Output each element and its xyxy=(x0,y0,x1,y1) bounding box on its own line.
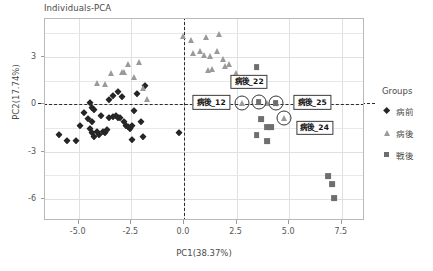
legend-item-label: 病後 xyxy=(396,127,414,139)
x-axis-tick xyxy=(236,220,237,224)
data-point xyxy=(139,133,147,141)
data-point xyxy=(125,61,131,67)
y-axis-label: PC2(17.74%) xyxy=(11,42,21,142)
data-point xyxy=(102,81,108,87)
x-axis-label: PC1(38.37%) xyxy=(44,248,364,258)
x-axis-tick-label: 0.0 xyxy=(177,227,190,236)
triangle-glyph xyxy=(384,130,390,136)
point-label: 病後_22 xyxy=(231,75,268,89)
data-point xyxy=(175,130,183,138)
legend: Groups 病前病後戦後 xyxy=(381,86,433,169)
y-axis-tick-label: -3 xyxy=(12,146,36,155)
x-axis-tick-label: -5.0 xyxy=(70,227,86,236)
page-title: Individuals-PCA xyxy=(44,3,111,13)
triangle-marker-icon xyxy=(381,130,392,136)
y-axis-tick xyxy=(41,56,45,57)
diamond-glyph xyxy=(383,107,391,115)
gridline-vertical xyxy=(79,19,80,219)
gridline-vertical xyxy=(342,19,343,219)
data-point xyxy=(121,69,127,75)
data-point xyxy=(332,195,338,201)
square-marker-icon xyxy=(381,152,392,158)
x-axis-tick xyxy=(288,220,289,224)
data-point xyxy=(140,85,146,91)
gridline-vertical xyxy=(237,19,238,219)
x-axis-tick xyxy=(183,220,184,224)
plot-area xyxy=(44,18,364,220)
data-point xyxy=(264,138,270,144)
data-point xyxy=(216,31,222,37)
gridline-horizontal xyxy=(45,152,363,153)
data-point xyxy=(136,59,142,65)
y-axis-tick-label: -6 xyxy=(12,193,36,202)
data-point xyxy=(118,93,126,101)
data-point xyxy=(63,137,71,145)
data-point xyxy=(325,173,331,179)
highlighted-point-circle xyxy=(251,94,266,109)
x-axis-tick xyxy=(130,220,131,224)
legend-title: Groups xyxy=(382,86,433,96)
highlighted-point-circle xyxy=(276,110,291,125)
legend-item-label: 戦後 xyxy=(396,149,414,161)
highlighted-point-circle xyxy=(234,96,249,111)
gridline-vertical xyxy=(131,19,132,219)
zero-reference-line-vertical xyxy=(184,18,185,220)
data-point xyxy=(97,112,105,120)
legend-item-3[interactable]: 戦後 xyxy=(381,147,433,162)
data-point xyxy=(129,136,137,144)
x-axis-tick-label: 7.5 xyxy=(334,227,347,236)
data-point xyxy=(214,48,220,54)
data-point xyxy=(137,119,145,127)
gridline-horizontal xyxy=(45,199,363,200)
data-point xyxy=(209,66,215,72)
data-point xyxy=(258,116,264,122)
data-point xyxy=(188,37,194,43)
data-point xyxy=(207,53,213,59)
point-label: 病後_24 xyxy=(296,121,333,135)
data-point xyxy=(201,52,207,58)
data-point xyxy=(254,132,260,138)
data-point xyxy=(55,131,63,139)
legend-item-2[interactable]: 病後 xyxy=(381,125,433,140)
point-label: 病後_12 xyxy=(193,95,230,109)
data-point xyxy=(220,56,226,62)
data-point xyxy=(91,106,99,114)
y-axis-tick xyxy=(41,198,45,199)
data-point xyxy=(180,33,186,39)
y-axis-tick xyxy=(41,151,45,152)
highlighted-point-circle xyxy=(268,96,283,111)
data-point xyxy=(131,74,137,80)
diamond-marker-icon xyxy=(381,108,392,113)
data-point xyxy=(108,70,114,76)
x-axis-tick-label: 5.0 xyxy=(282,227,295,236)
x-axis-tick-label: 2.5 xyxy=(229,227,242,236)
x-axis-tick xyxy=(341,220,342,224)
x-axis-tick-label: -2.5 xyxy=(123,227,139,236)
data-point xyxy=(94,80,100,86)
data-point xyxy=(329,181,335,187)
data-point xyxy=(203,34,209,40)
data-point xyxy=(268,124,274,130)
legend-item-label: 病前 xyxy=(396,105,414,117)
pca-scatter-figure: Individuals-PCA -5.0-2.50.02.55.07.530-3… xyxy=(0,0,433,271)
y-axis-tick xyxy=(41,103,45,104)
x-axis-tick xyxy=(78,220,79,224)
data-point xyxy=(133,90,141,98)
data-point xyxy=(190,50,196,56)
point-label: 病後_25 xyxy=(294,95,331,109)
data-point xyxy=(226,61,232,67)
data-point xyxy=(144,96,150,102)
data-point xyxy=(254,64,260,70)
legend-item-1[interactable]: 病前 xyxy=(381,103,433,118)
gridline-horizontal xyxy=(45,175,363,176)
legend-items: 病前病後戦後 xyxy=(381,103,433,162)
square-glyph xyxy=(384,152,390,158)
